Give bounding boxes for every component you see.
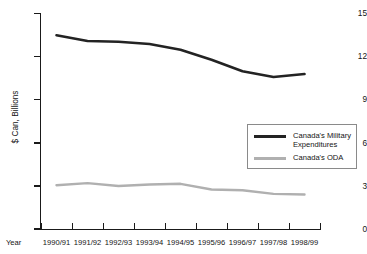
legend-swatch-military-icon [254, 135, 286, 138]
x-tick-label: 1998/99 [286, 238, 323, 247]
series-line-oda [57, 183, 305, 194]
legend-label-military: Canada's Military Expenditures [293, 131, 351, 150]
legend-swatch-oda-icon [254, 157, 286, 160]
series-line-military [57, 35, 305, 77]
legend-label-oda: Canada's ODA [293, 153, 343, 162]
legend-item-military: Canada's Military Expenditures [254, 131, 351, 150]
x-axis-caption: Year [6, 238, 21, 247]
line-chart: $ Can, Billions 03691215 Year 1990/91199… [0, 0, 367, 254]
chart-legend: Canada's Military Expenditures Canada's … [247, 124, 357, 169]
legend-item-oda: Canada's ODA [254, 153, 343, 162]
